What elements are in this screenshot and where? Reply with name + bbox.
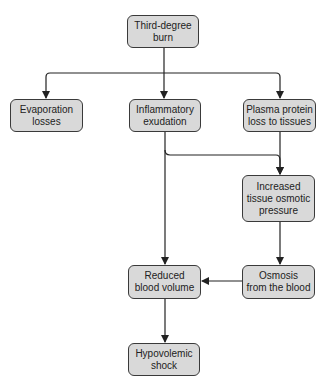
edge-burn-plasma xyxy=(164,73,280,98)
node-label: Third-degree burn xyxy=(134,20,191,44)
node-third-degree-burn: Third-degree burn xyxy=(127,15,199,48)
node-label: Increased tissue osmotic pressure xyxy=(247,181,310,217)
edge-inflammatory-osmotic xyxy=(165,150,280,174)
node-label: Inflammatory exudation xyxy=(136,104,194,128)
node-reduced-blood-volume: Reduced blood volume xyxy=(128,265,201,299)
node-hypovolemic-shock: Hypovolemic shock xyxy=(128,343,200,376)
node-inflammatory-exudation: Inflammatory exudation xyxy=(129,99,201,132)
node-osmosis-from-blood: Osmosis from the blood xyxy=(242,265,315,299)
node-plasma-protein-loss: Plasma protein loss to tissues xyxy=(243,99,316,132)
edge-burn-evaporation xyxy=(46,73,164,98)
node-label: Hypovolemic shock xyxy=(135,348,192,372)
node-label: Osmosis from the blood xyxy=(247,270,311,294)
node-label: Plasma protein loss to tissues xyxy=(246,104,313,128)
node-increased-osmotic-pressure: Increased tissue osmotic pressure xyxy=(242,175,315,222)
node-evaporation-losses: Evaporation losses xyxy=(10,99,83,132)
node-label: Evaporation losses xyxy=(20,104,73,128)
node-label: Reduced blood volume xyxy=(135,270,194,294)
